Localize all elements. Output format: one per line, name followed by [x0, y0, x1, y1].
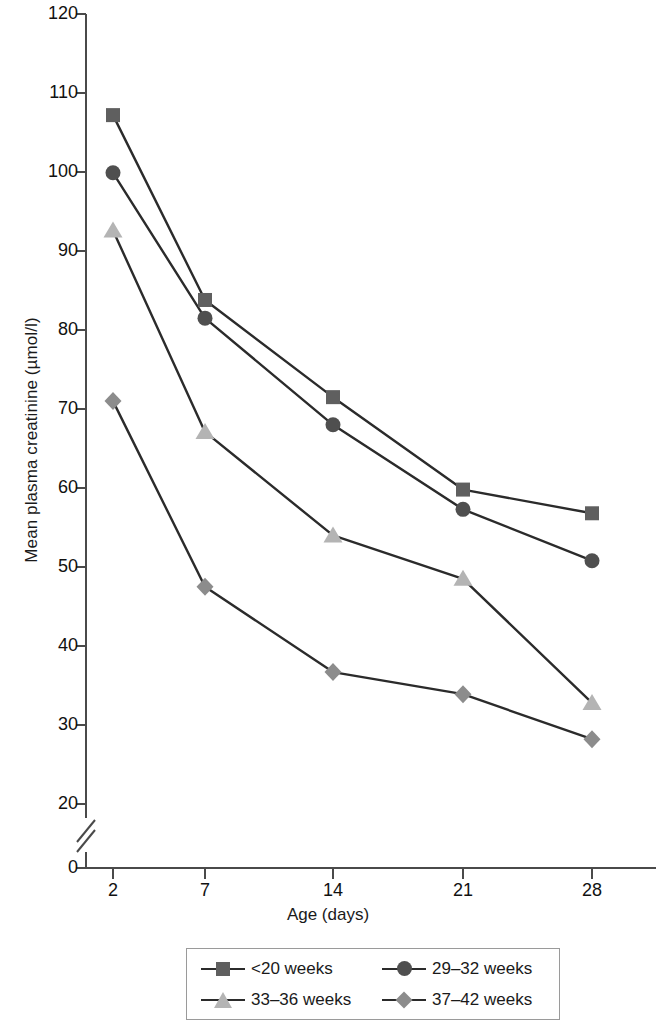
y-axis-tick-labels: 12011010090807060504030200 [20, 0, 78, 1025]
y-tick-label: 50 [26, 557, 78, 575]
y-tick-label: 20 [26, 794, 78, 812]
data-point-diamond-marker [325, 663, 342, 681]
plot-area [0, 0, 656, 1025]
data-point-square-marker [198, 293, 212, 307]
series-line [113, 115, 592, 513]
y-tick-label: 100 [26, 162, 78, 180]
circle-marker-icon [397, 961, 412, 976]
legend-label: <20 weeks [251, 959, 333, 979]
data-point-diamond-marker [455, 685, 472, 703]
legend-item: 37–42 weeks [382, 990, 559, 1010]
y-tick-label: 120 [26, 4, 78, 22]
y-tick-label: 90 [26, 241, 78, 259]
y-axis-break-icon-2 [77, 830, 95, 852]
legend-label: 33–36 weeks [251, 990, 351, 1010]
series-line [113, 401, 592, 739]
x-tick-label: 28 [562, 880, 622, 901]
data-point-circle-marker [456, 502, 471, 517]
y-tick-label: 70 [26, 399, 78, 417]
y-tick-label: 80 [26, 320, 78, 338]
data-point-square-marker [585, 506, 599, 520]
x-axis-label: Age (days) [0, 905, 656, 925]
data-point-square-marker [106, 108, 120, 122]
series-line [113, 173, 592, 561]
legend-swatch [201, 960, 245, 978]
data-point-diamond-marker [105, 392, 122, 410]
x-tick-label: 14 [303, 880, 363, 901]
legend-label: 37–42 weeks [432, 990, 532, 1010]
legend-item: 29–32 weeks [382, 959, 559, 979]
x-tick-label: 2 [83, 880, 143, 901]
y-axis-break-icon [77, 820, 95, 842]
square-marker-icon [216, 962, 230, 976]
series-line [113, 230, 592, 702]
y-tick-label: 30 [26, 715, 78, 733]
legend-item: 33–36 weeks [201, 990, 378, 1010]
legend-label: 29–32 weeks [432, 959, 532, 979]
y-tick-label: 60 [26, 478, 78, 496]
data-point-circle-marker [106, 165, 121, 180]
data-point-triangle-marker [104, 221, 123, 237]
triangle-marker-icon [214, 992, 232, 1008]
y-tick-label-zero: 0 [26, 858, 78, 876]
data-point-square-marker [456, 483, 470, 497]
x-tick-label: 7 [175, 880, 235, 901]
legend-swatch [201, 991, 245, 1009]
data-point-circle-marker [326, 417, 341, 432]
diamond-marker-icon [396, 991, 413, 1008]
data-point-triangle-marker [196, 423, 215, 439]
data-point-circle-marker [198, 311, 213, 326]
data-point-diamond-marker [197, 578, 214, 596]
legend-swatch [382, 960, 426, 978]
legend-item: <20 weeks [201, 959, 378, 979]
x-tick-label: 21 [433, 880, 493, 901]
data-point-diamond-marker [584, 730, 601, 748]
y-tick-label: 110 [26, 83, 78, 101]
chart-legend: <20 weeks29–32 weeks33–36 weeks37–42 wee… [186, 948, 560, 1020]
data-point-square-marker [326, 390, 340, 404]
y-tick-label: 40 [26, 636, 78, 654]
creatinine-line-chart: Mean plasma creatinine (µmol/l) 12011010… [0, 0, 656, 1025]
legend-swatch [382, 991, 426, 1009]
data-point-circle-marker [585, 553, 600, 568]
